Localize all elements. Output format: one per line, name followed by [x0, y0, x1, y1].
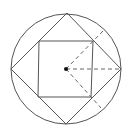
dashed-radius-2 [66, 69, 101, 108]
geometry-figure [0, 0, 126, 136]
dashed-radius-0 [66, 31, 103, 69]
center-point [64, 67, 68, 71]
